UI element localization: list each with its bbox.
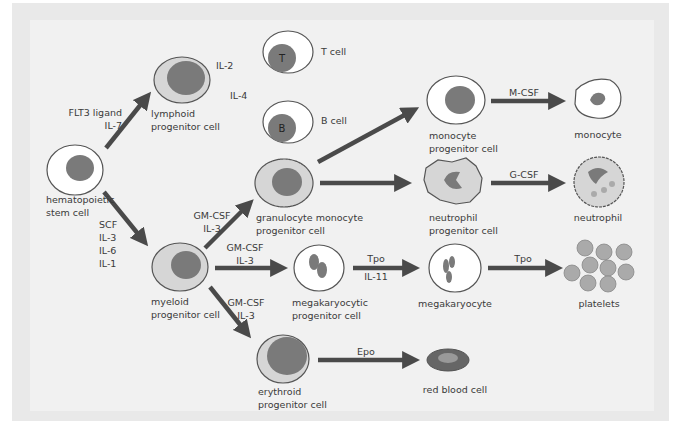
b-glyph: B: [279, 123, 286, 134]
monocyte-cell-icon: [575, 79, 621, 118]
rbc-label: red blood cell: [423, 383, 487, 396]
erythroid-cell-icon: [257, 335, 309, 383]
platelets-icon: [564, 240, 634, 292]
red-blood-cell-icon: [427, 349, 469, 371]
neutrophil-progenitor-cell-icon: [424, 158, 482, 204]
factor-il2: IL-2: [216, 59, 233, 72]
t-cell-label: T cell: [321, 45, 346, 58]
factor-hsc-myeloid: SCFIL-3 IL-6IL-1: [99, 218, 117, 270]
t-cell-icon: T: [263, 31, 313, 73]
megakaryocytic-progenitor-label: megakaryocyticprogenitor cell: [292, 296, 368, 322]
factor-hsc-lymphoid: FLT3 ligandIL-7: [69, 106, 123, 132]
monocyte-label: monocyte: [574, 128, 621, 141]
factor-myeloid-mk: GM-CSFIL-3: [226, 241, 263, 267]
b-cell-icon: B: [263, 101, 313, 143]
megakaryocyte-cell-icon: [429, 244, 481, 292]
lymphoid-label: lymphoidprogenitor cell: [151, 107, 220, 133]
hsc-cell-icon: [47, 145, 103, 195]
factor-epo: Epo: [357, 345, 375, 358]
platelets-label: platelets: [578, 297, 619, 310]
t-glyph: T: [278, 53, 286, 64]
myeloid-cell-icon: [152, 243, 208, 291]
factor-il4: IL-4: [230, 89, 247, 102]
b-cell-label: B cell: [321, 114, 347, 127]
neutrophil-label: neutrophil: [574, 211, 622, 224]
lymphoid-cell-icon: [154, 57, 210, 103]
factor-gcsf: G-CSF: [510, 168, 539, 181]
neutrophil-progenitor-label: neutrophilprogenitor cell: [429, 211, 498, 237]
myeloid-label: myeloidprogenitor cell: [151, 295, 220, 321]
factor-myeloid-gm: GM-CSFIL-3: [193, 209, 230, 235]
hsc-label: hematopoieticstem cell: [46, 193, 114, 219]
gm-progenitor-cell-icon: [255, 159, 313, 207]
monocyte-progenitor-cell-icon: [427, 76, 485, 124]
megakaryocytic-progenitor-cell-icon: [294, 245, 344, 291]
neutrophil-cell-icon: [574, 157, 624, 207]
megakaryocyte-label: megakaryocyte: [418, 297, 492, 310]
factor-mcsf: M-CSF: [509, 86, 539, 99]
erythroid-label: erythroidprogenitor cell: [258, 385, 327, 411]
factor-myeloid-erythroid: GM-CSFIL-3: [227, 296, 264, 322]
factor-mk-prog-mk: Tpo IL-11: [364, 252, 387, 283]
factor-tpo-platelets: Tpo: [514, 252, 532, 265]
gm-progenitor-label: granulocyte monocyteprogenitor cell: [256, 211, 363, 237]
monocyte-progenitor-label: monocyteprogenitor cell: [429, 129, 498, 155]
